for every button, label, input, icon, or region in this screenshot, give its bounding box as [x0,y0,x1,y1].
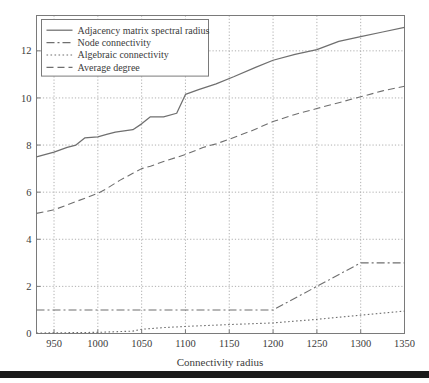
y-tick-label: 6 [26,187,31,198]
y-tick-label: 2 [26,281,31,292]
x-tick-label: 950 [46,338,62,349]
x-tick-label: 1100 [175,338,196,349]
x-tick-label: 1350 [394,338,415,349]
x-tick-label: 1300 [350,338,371,349]
legend-label-2: Node connectivity [78,37,152,48]
x-tick-label: 1050 [131,338,152,349]
y-tick-label: 8 [26,140,31,151]
line-chart: 95010001050110011501200125013001350 0246… [0,0,429,383]
y-tick-label: 4 [26,234,32,245]
y-tick-label: 12 [21,45,32,56]
y-tick-label: 10 [21,93,32,104]
chart-legend: Adjacency matrix spectral radiusNode con… [42,20,210,77]
legend-label-4: Average degree [78,62,141,73]
x-tick-label: 1000 [87,338,108,349]
y-tick-label: 0 [26,328,31,339]
x-axis-title: Connectivity radius [177,356,263,368]
bottom-divider-bar [0,371,429,378]
chart-figure: 95010001050110011501200125013001350 0246… [0,0,429,383]
x-tick-label: 1150 [219,338,240,349]
x-tick-label: 1200 [263,338,284,349]
legend-label-1: Adjacency matrix spectral radius [78,25,210,36]
x-tick-labels: 95010001050110011501200125013001350 [46,338,415,349]
x-tick-label: 1250 [306,338,327,349]
bottom-spacer [0,378,429,380]
legend-label-3: Algebraic connectivity [78,49,169,60]
